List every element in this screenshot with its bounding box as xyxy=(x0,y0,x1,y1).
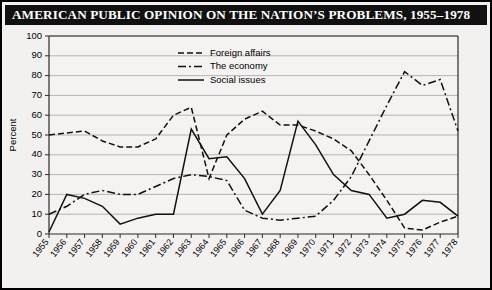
page-title: AMERICAN PUBLIC OPINION ON THE NATION’S … xyxy=(12,7,470,23)
x-tick-label: 1958 xyxy=(84,237,104,259)
y-tick-label: 70 xyxy=(31,89,42,100)
x-tick-label: 1964 xyxy=(190,237,210,259)
chart-title-bar: AMERICAN PUBLIC OPINION ON THE NATION’S … xyxy=(5,5,487,25)
y-tick-label: 40 xyxy=(31,148,42,159)
x-tick-label: 1974 xyxy=(368,237,388,259)
x-tick-label: 1972 xyxy=(333,237,353,259)
y-tick-label: 10 xyxy=(31,208,42,219)
x-axis-ticks: 1955195619571958195919601961196219631964… xyxy=(30,234,459,259)
x-tick-label: 1978 xyxy=(439,237,459,259)
x-tick-label: 1973 xyxy=(350,237,370,259)
x-tick-label: 1962 xyxy=(155,237,175,259)
y-axis-label: Percent xyxy=(7,118,18,151)
line-chart-svg: 0102030405060708090100 19551956195719581… xyxy=(2,26,490,288)
y-tick-label: 60 xyxy=(31,109,42,120)
x-tick-label: 1976 xyxy=(404,237,424,259)
legend-label-social_issues: Social issues xyxy=(210,74,266,85)
y-tick-label: 50 xyxy=(31,129,42,140)
x-tick-label: 1965 xyxy=(208,237,228,259)
y-tick-label: 20 xyxy=(31,188,42,199)
y-tick-label: 90 xyxy=(31,49,42,60)
x-tick-label: 1975 xyxy=(386,237,406,259)
x-tick-label: 1969 xyxy=(279,237,299,259)
x-tick-label: 1959 xyxy=(101,237,121,259)
y-tick-label: 100 xyxy=(26,30,42,41)
x-tick-label: 1977 xyxy=(422,237,442,259)
plot-area: 0102030405060708090100 19551956195719581… xyxy=(2,26,490,288)
x-tick-label: 1967 xyxy=(244,237,264,259)
x-tick-label: 1957 xyxy=(66,237,86,259)
x-tick-label: 1971 xyxy=(315,237,335,259)
y-axis-ticks: 0102030405060708090100 xyxy=(26,30,49,239)
y-tick-label: 80 xyxy=(31,69,42,80)
x-tick-label: 1968 xyxy=(262,237,282,259)
x-tick-label: 1963 xyxy=(173,237,193,259)
x-tick-label: 1955 xyxy=(30,237,50,259)
x-tick-label: 1960 xyxy=(119,237,139,259)
x-tick-label: 1961 xyxy=(137,237,157,259)
y-tick-label: 0 xyxy=(37,228,42,239)
chart-figure: AMERICAN PUBLIC OPINION ON THE NATION’S … xyxy=(0,0,492,290)
x-tick-label: 1970 xyxy=(297,237,317,259)
legend-label-the_economy: The economy xyxy=(210,60,268,71)
x-tick-label: 1966 xyxy=(226,237,246,259)
y-tick-label: 30 xyxy=(31,168,42,179)
legend-label-foreign_affairs: Foreign affairs xyxy=(210,47,271,58)
x-tick-label: 1956 xyxy=(48,237,68,259)
